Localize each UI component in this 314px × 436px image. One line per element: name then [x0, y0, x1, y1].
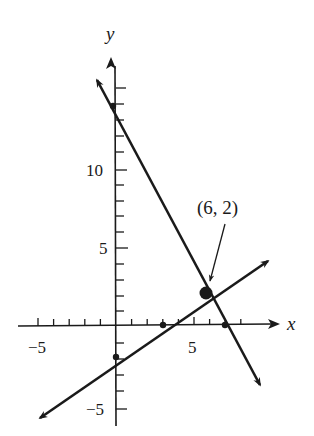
point-y-intercept-line-2 [110, 103, 116, 109]
intersection-label: (6, 2) [197, 197, 238, 219]
y-tick-label-neg5: −5 [86, 400, 104, 419]
series-line-1 [40, 261, 268, 418]
x-axis: x −5 5 [18, 313, 296, 357]
intersection-annotation: (6, 2) [197, 197, 238, 300]
y-axis-arrow-icon [106, 57, 116, 69]
intersection-point [200, 287, 213, 300]
point-x-intercept-line-2 [222, 322, 228, 328]
y-tick-label-5: 5 [99, 239, 108, 258]
x-tick-label-5: 5 [188, 338, 197, 357]
pointer-arrow-icon [210, 224, 225, 281]
y-axis-label: y [104, 23, 115, 44]
x-axis-label: x [286, 313, 296, 334]
chart-canvas: x −5 5 y 10 [0, 0, 314, 436]
y-tick-label-10: 10 [86, 161, 103, 180]
point-y-intercept-line-1 [113, 354, 119, 360]
point-x-intercept-line-1 [160, 322, 166, 328]
y-axis: y 10 5 −5 [86, 23, 128, 426]
x-tick-label-neg5: −5 [28, 338, 46, 357]
